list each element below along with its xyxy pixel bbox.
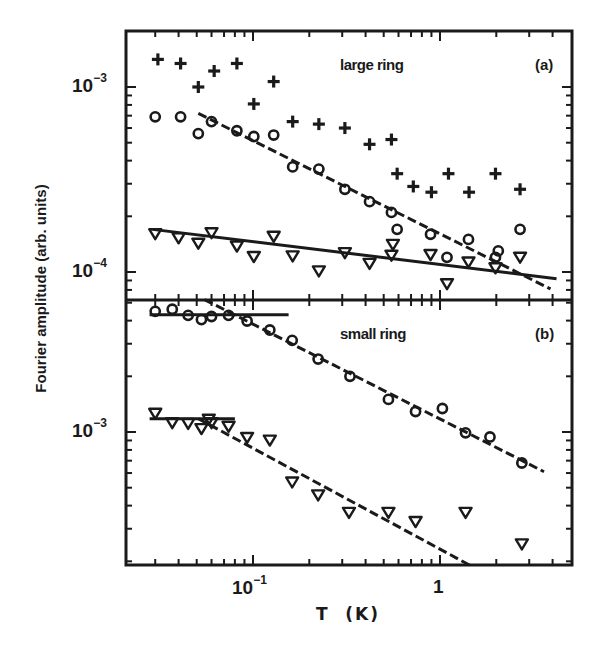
triangle-marker (231, 242, 243, 252)
circle-marker (485, 432, 494, 441)
triangle-marker (343, 508, 355, 518)
plus-marker (287, 116, 299, 128)
panel-a-title: large ring (340, 56, 403, 73)
triangle-marker (382, 508, 394, 518)
plus-marker (442, 168, 454, 180)
circle-marker (384, 395, 393, 404)
circle-marker (269, 130, 278, 139)
triangle-marker (313, 266, 325, 276)
circle-marker (442, 253, 451, 262)
triangle-marker (516, 539, 528, 549)
plus-marker (175, 57, 187, 69)
plus-marker (192, 81, 204, 93)
circle-marker (207, 312, 216, 321)
x-tick-1e-1: 10−1 (232, 576, 267, 599)
x-tick-1: 1 (433, 576, 444, 598)
triangle-marker (410, 517, 422, 527)
plus-marker (231, 57, 243, 69)
plus-marker (208, 65, 220, 77)
y-tick-a-1e-3: 10−3 (72, 74, 107, 97)
triangle-marker (286, 478, 298, 488)
plus-marker (339, 122, 351, 134)
circle-marker (288, 162, 297, 171)
plus-marker (489, 168, 501, 180)
panel-b-title: small ring (340, 325, 406, 342)
x-axis-label: T (K) (308, 604, 388, 624)
circle-marker (194, 129, 203, 138)
circle-marker (249, 132, 258, 141)
plus-marker (248, 98, 260, 110)
triangle-marker (192, 239, 204, 249)
y-tick-b-1e-3: 10−3 (72, 419, 107, 442)
y-axis-label: Fourier amplitude (arb. units) (32, 159, 49, 419)
triangle-marker (387, 240, 399, 250)
circle-marker (426, 230, 435, 239)
circle-marker (176, 112, 185, 121)
plus-marker (425, 186, 437, 198)
dashed-fit-line (198, 419, 470, 566)
circle-marker (411, 407, 420, 416)
plus-marker (514, 183, 526, 195)
plus-marker (268, 76, 280, 88)
circle-marker (515, 225, 524, 234)
plus-marker (463, 186, 475, 198)
triangle-marker (195, 424, 207, 434)
plus-marker (407, 180, 419, 192)
triangle-marker (173, 233, 185, 243)
triangle-marker (441, 279, 453, 289)
circle-marker (151, 112, 160, 121)
circle-marker (393, 225, 402, 234)
plot-frame (126, 31, 572, 565)
triangle-marker (514, 253, 526, 263)
panel-b-tag: (b) (535, 325, 554, 342)
plus-marker (385, 134, 397, 146)
plus-marker (313, 118, 325, 130)
triangle-marker (223, 422, 235, 432)
plus-marker (364, 138, 376, 150)
plus-marker (152, 53, 164, 65)
triangle-marker (248, 252, 260, 262)
triangle-marker (287, 251, 299, 261)
triangle-marker (264, 436, 276, 446)
circle-marker (168, 305, 177, 314)
triangle-marker (460, 508, 472, 518)
figure: Fourier amplitude (arb. units) 10−3 10−4… (0, 0, 595, 647)
triangle-marker (364, 259, 376, 269)
panel-a-tag: (a) (535, 56, 553, 73)
plus-marker (391, 168, 403, 180)
triangle-marker (425, 250, 437, 260)
triangle-marker (312, 490, 324, 500)
triangle-marker (182, 419, 194, 429)
triangle-marker (268, 232, 280, 242)
circle-marker (197, 315, 206, 324)
y-tick-a-1e-4: 10−4 (72, 259, 107, 282)
circle-marker (438, 404, 447, 413)
triangle-marker (241, 433, 253, 443)
circle-marker (464, 235, 473, 244)
